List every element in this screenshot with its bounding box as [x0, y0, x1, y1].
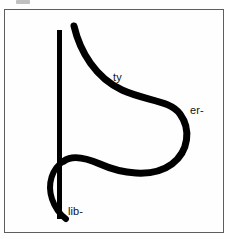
letterform-illustration	[0, 0, 230, 239]
figure-label-ty: ty	[113, 72, 122, 83]
figure-label-er: er-	[190, 105, 204, 116]
figure-root: ty er- lib-	[0, 0, 230, 239]
glyph-strokes	[50, 26, 187, 219]
upper-bowl-stroke	[64, 26, 187, 173]
figure-label-lib: lib-	[68, 206, 83, 217]
vertical-stem-stroke	[57, 30, 62, 219]
